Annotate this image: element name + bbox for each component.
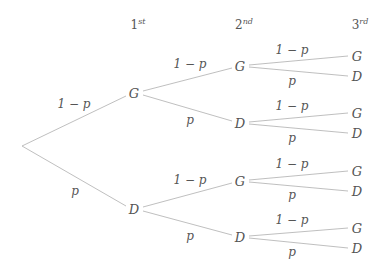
edge-label-gd-g: 1 − p <box>276 100 309 112</box>
edge-label-gg-d: p <box>288 75 296 87</box>
header-2nd-suffix: nd <box>243 17 253 26</box>
header-1st: 1st <box>131 18 146 31</box>
node-3-d: D <box>351 127 363 140</box>
node-2-gd: D <box>234 117 246 130</box>
node-1-d: D <box>128 203 140 216</box>
node-3-c: G <box>351 107 363 120</box>
node-2-dg: G <box>234 175 246 188</box>
edge-dg-g <box>249 171 348 180</box>
header-3rd-num: 3 <box>352 18 360 32</box>
edge-gd-d <box>249 124 348 133</box>
edge-dg-d <box>249 182 348 191</box>
node-3-h: D <box>351 242 363 255</box>
edge-g-g <box>143 68 232 91</box>
node-1-g: G <box>128 87 140 100</box>
edge-dd-g <box>249 228 348 236</box>
header-2nd-num: 2 <box>235 18 243 32</box>
edge-label-d-g: 1 − p <box>174 174 207 186</box>
edge-label-gg-g: 1 − p <box>276 44 309 56</box>
header-3rd: 3rd <box>352 18 369 31</box>
edge-label-d-d: p <box>186 230 194 242</box>
header-1st-suffix: st <box>138 17 145 26</box>
node-2-dd: D <box>234 231 246 244</box>
edge-gd-g <box>249 113 348 122</box>
edge-label-dg-g: 1 − p <box>276 158 309 170</box>
edge-dd-d <box>249 238 348 248</box>
node-3-b: D <box>351 70 363 83</box>
edge-gg-g <box>249 56 348 65</box>
header-3rd-suffix: rd <box>359 17 368 26</box>
header-1st-num: 1 <box>131 18 139 32</box>
header-2nd: 2nd <box>235 18 253 31</box>
edge-gg-d <box>249 67 348 76</box>
node-3-g: G <box>351 222 363 235</box>
node-2-gg: G <box>234 60 246 73</box>
node-3-a: G <box>351 50 363 63</box>
node-3-f: D <box>351 185 363 198</box>
node-3-e: G <box>351 165 363 178</box>
edge-label-root-d: p <box>71 185 79 197</box>
edge-label-dd-g: 1 − p <box>276 214 309 226</box>
edge-label-g-d: p <box>186 114 194 126</box>
edge-label-gd-d: p <box>288 132 296 144</box>
edge-label-g-g: 1 − p <box>174 58 207 70</box>
edge-label-dg-d: p <box>288 189 296 201</box>
edge-label-dd-d: p <box>288 246 296 258</box>
edge-label-root-g: 1 − p <box>58 98 91 110</box>
